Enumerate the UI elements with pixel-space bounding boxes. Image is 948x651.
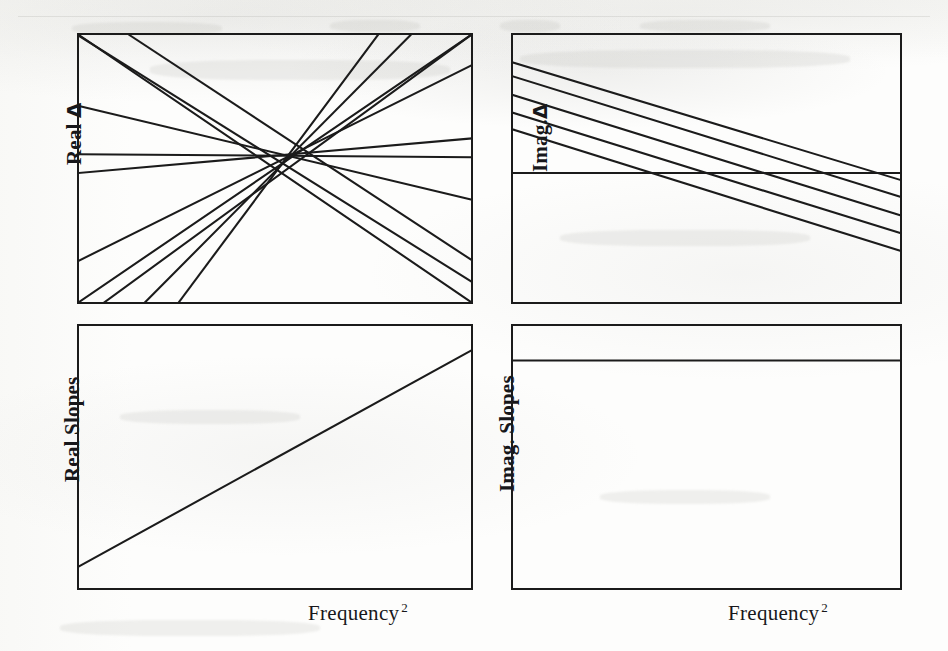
real-slopes-line [79,351,471,567]
real-delta-line [179,35,378,302]
imag-delta-line [513,130,900,251]
imag-delta-line-group [513,63,900,251]
scan-bleed-artifact [500,20,560,32]
panel-real-slopes [77,324,473,590]
scan-bleed-artifact [640,20,770,32]
real-delta-line-group [79,35,471,302]
axis-label-frequency-right: Frequency2 [728,600,828,626]
axis-label-frequency-left-text: Frequency [308,601,399,625]
real-delta-line [79,36,471,281]
scan-bleed-artifact [60,620,320,636]
frequency-exponent-left: 2 [401,600,408,615]
panel-imag-delta [511,33,902,304]
scan-bleed-artifact [330,20,420,32]
imag-delta-line [513,95,900,215]
figure-page: Real Δ Imag.Δ [0,0,948,651]
real-slopes-line-group [79,351,471,567]
real-delta-line [79,66,471,261]
panel-imag-slopes [511,324,902,590]
frequency-exponent-right: 2 [821,600,828,615]
panel-real-delta [77,33,473,304]
imag-delta-line [513,76,900,196]
axis-label-frequency-left: Frequency2 [308,600,408,626]
panel-real-slopes-plot [79,326,471,588]
axis-label-frequency-right-text: Frequency [728,601,819,625]
imag-delta-line [513,63,900,180]
panel-imag-slopes-plot [513,326,900,588]
real-delta-line [105,35,471,302]
panel-imag-delta-plot [513,35,900,302]
panel-real-delta-plot [79,35,471,302]
scan-bleed-artifact [18,16,930,17]
real-delta-line [79,106,471,200]
